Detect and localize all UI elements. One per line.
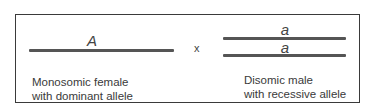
female-description-line2: with dominant allele <box>32 89 133 103</box>
female-description-line1: Monosomic female <box>32 75 133 89</box>
female-allele-label: A <box>80 33 104 48</box>
male-chromosome-bottom <box>223 54 346 57</box>
male-description-line1: Disomic male <box>244 73 346 87</box>
male-description-line2: with recessive allele <box>244 87 346 101</box>
female-chromosome <box>29 49 174 52</box>
male-allele-top-label: a <box>273 22 297 37</box>
male-allele-bottom-label: a <box>273 40 297 55</box>
cross-symbol: x <box>194 42 200 54</box>
female-description: Monosomic female with dominant allele <box>32 75 133 103</box>
male-description: Disomic male with recessive allele <box>244 73 346 101</box>
